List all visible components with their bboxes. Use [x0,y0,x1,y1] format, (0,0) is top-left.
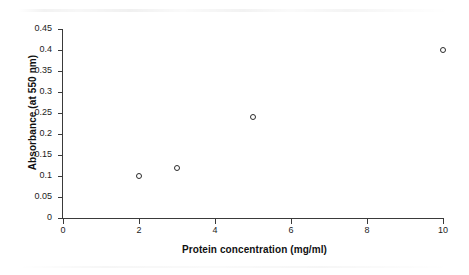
data-point-marker [250,114,256,120]
x-axis-title: Protein concentration (mg/ml) [0,244,469,255]
chart-figure: 00.050.10.150.20.250.30.350.40.45 024681… [0,0,469,275]
x-tick-mark [139,219,140,224]
plot-area [63,29,443,218]
x-tick-label: 6 [271,226,311,235]
x-tick-mark [291,219,292,224]
x-axis-line [63,218,444,219]
x-tick-mark [367,219,368,224]
x-tick-mark [443,219,444,224]
data-point-marker [136,173,142,179]
y-axis-title: Absorbance (at 550 nm) [27,28,38,198]
x-tick-mark [215,219,216,224]
scan-artifact-top [18,9,450,12]
x-tick-label: 4 [195,226,235,235]
x-tick-label: 2 [119,226,159,235]
scan-artifact-bottom [18,266,450,268]
x-tick-mark [63,219,64,224]
x-tick-label: 0 [43,226,83,235]
y-tick-label: 0 [6,213,52,222]
data-point-marker [174,165,180,171]
x-tick-label: 10 [423,226,463,235]
data-point-marker [440,47,446,53]
x-tick-label: 8 [347,226,387,235]
